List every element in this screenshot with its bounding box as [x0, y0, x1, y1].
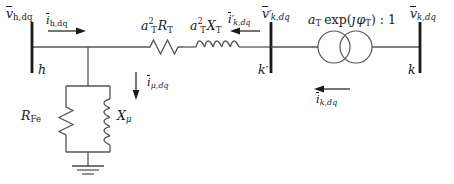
shunt-inductor	[104, 99, 110, 145]
current-arrow-i-k-prime	[230, 28, 260, 35]
imaginary-unit-glyph: ȷ	[352, 12, 356, 27]
label-i-h-subscript: h,dq	[50, 19, 68, 28]
label-shunt-resistor: RFe	[21, 110, 41, 124]
label-i-mu: iμ,dq	[147, 77, 169, 90]
label-turns-ratio: aTexp(ȷφT) : 1	[308, 14, 396, 28]
current-arrow-i-mu	[133, 72, 140, 100]
label-series-resistor: a2TRT	[141, 17, 173, 34]
shunt-resistor	[59, 104, 73, 139]
label-v-h: vh,dq	[6, 8, 32, 22]
label-series-inductor: a2TXT	[190, 17, 221, 34]
series-inductor	[196, 41, 239, 47]
label-bus-k: k	[408, 64, 416, 77]
label-i-h-symbol: i	[46, 13, 50, 27]
label-i-h: ih,dq	[46, 15, 68, 28]
current-arrow-i-h	[48, 28, 86, 35]
label-v-k-prime: v′k,dq	[262, 8, 290, 22]
label-v-h-symbol: v	[6, 6, 13, 21]
label-shunt-inductor: Xμ	[117, 110, 132, 124]
label-v-h-subscript: h,dq	[13, 12, 32, 22]
label-bus-h: h	[38, 64, 46, 77]
label-bus-k-prime: k′	[258, 64, 268, 77]
series-resistor	[147, 40, 183, 54]
label-i-k: ik,dq	[316, 94, 337, 107]
circuit-diagram: vh,dq ih,dq h a2TRT a2TXT RFe Xμ iμ,dq i…	[0, 0, 454, 184]
label-v-k: vk,dq	[410, 8, 436, 22]
transformer-circle-right	[340, 31, 372, 63]
label-i-k-prime: i′k,dq	[228, 14, 251, 27]
